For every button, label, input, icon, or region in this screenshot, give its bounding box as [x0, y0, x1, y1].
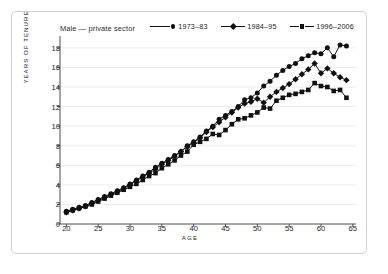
x-tick-label: 40	[189, 224, 197, 233]
chart-figure: Male — private sector 1973–83 1984–95 19…	[11, 11, 367, 254]
x-tick-label: 35	[158, 224, 166, 233]
x-tick-label: 25	[94, 224, 102, 233]
x-tick-label: 45	[221, 224, 229, 233]
y-tick-label: 4	[34, 181, 60, 190]
y-axis-label: YEARS OF TENURE	[22, 2, 29, 92]
x-tick-label: 30	[126, 224, 134, 233]
y-tick-label: 12	[34, 103, 60, 112]
y-tick-label: 8	[34, 142, 60, 151]
y-axis-ticks: 024681012141618	[34, 12, 60, 255]
x-tick-label: 50	[253, 224, 261, 233]
x-tick-label: 55	[285, 224, 293, 233]
x-tick-label: 20	[62, 224, 70, 233]
x-axis-label: AGE	[12, 234, 368, 241]
y-tick-label: 10	[34, 122, 60, 131]
y-tick-label: 2	[34, 200, 60, 209]
plot-area: 024681012141618 20253035404550556065 YEA…	[12, 12, 368, 255]
x-tick-label: 60	[317, 224, 325, 233]
chart-canvas	[12, 12, 368, 255]
y-tick-label: 14	[34, 83, 60, 92]
x-tick-label: 65	[349, 224, 357, 233]
y-tick-label: 6	[34, 161, 60, 170]
y-tick-label: 16	[34, 63, 60, 72]
y-tick-label: 18	[34, 44, 60, 53]
